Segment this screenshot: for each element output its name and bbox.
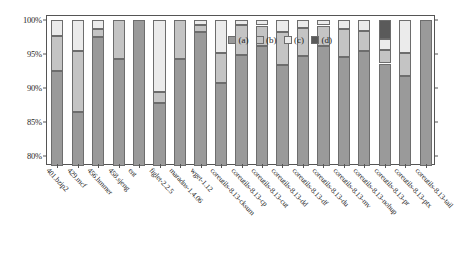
legend-label: (b) [266, 35, 277, 45]
bar-segment-b [338, 29, 350, 57]
bar-segment-c [92, 20, 104, 29]
legend-item: (d) [311, 35, 332, 45]
legend-item: (b) [256, 35, 277, 45]
x-axis-labels: 401.bzip2429.mcf456.hmmer458.sjengentfig… [0, 166, 464, 261]
bar-segment-a [256, 46, 268, 166]
bar-segment-a [174, 59, 186, 166]
y-axis-tick-mark-right [434, 121, 438, 122]
y-axis-tick-mark-right [434, 155, 438, 156]
bar-segment-b [215, 53, 227, 83]
bar-group [92, 16, 104, 164]
bar-group [399, 16, 411, 164]
bar-segment-a [317, 46, 329, 166]
bar-segment-a [153, 103, 165, 166]
bar-segment-c [338, 20, 350, 29]
bar-segment-a [297, 56, 309, 166]
bar-segment-d [379, 20, 391, 39]
y-axis-tick-mark-right [434, 20, 438, 21]
legend-swatch-b [256, 36, 264, 44]
bar-segment-b [92, 29, 104, 37]
legend-swatch-a [228, 36, 236, 44]
bar-segment-b [358, 31, 370, 51]
bar-segment-c [215, 20, 227, 53]
bar-segment-c [235, 20, 247, 25]
chart-figure: 100%95%90%85%80% (a)(b)(c)(d) 401.bzip24… [0, 0, 464, 261]
bar-segment-a [215, 83, 227, 166]
bar-segment-b [379, 50, 391, 64]
chart-legend: (a)(b)(c)(d) [228, 35, 332, 45]
bar-segment-a [235, 55, 247, 166]
bar-segment-c [297, 20, 309, 28]
bar-segment-a [338, 57, 350, 166]
bar-segment-a [194, 32, 206, 166]
bar-segment-c [276, 20, 288, 32]
plot-area: 100%95%90%85%80% (a)(b)(c)(d) [46, 15, 435, 165]
legend-label: (a) [239, 35, 249, 45]
legend-item: (c) [284, 35, 305, 45]
bar-group [113, 16, 125, 164]
y-axis-tick-mark-right [434, 54, 438, 55]
bar-segment-b [194, 25, 206, 32]
bar-segment-a [420, 20, 432, 166]
bar-segment-a [92, 37, 104, 166]
bar-segment-a [113, 59, 125, 166]
bar-segment-a [276, 65, 288, 166]
bar-group [51, 16, 63, 164]
bar-segment-b [174, 20, 186, 59]
bar-segment-c [194, 20, 206, 25]
legend-swatch-d [311, 36, 319, 44]
legend-swatch-c [284, 36, 292, 44]
legend-label: (c) [294, 35, 304, 45]
bar-group [379, 16, 391, 164]
bar-segment-c [358, 20, 370, 31]
bar-segment-c [256, 20, 268, 25]
bar-group [338, 16, 350, 164]
bar-group [420, 16, 432, 164]
bar-group [153, 16, 165, 164]
bar-segment-b [51, 36, 63, 71]
bar-segment-c [51, 20, 63, 36]
bar-group [358, 16, 370, 164]
bar-segment-c [399, 20, 411, 53]
bar-segment-a [379, 64, 391, 166]
bar-segment-c [72, 20, 84, 51]
bar-segment-b [72, 51, 84, 112]
legend-label: (d) [322, 35, 333, 45]
bar-group [133, 16, 145, 164]
bar-segment-c [317, 20, 329, 25]
x-axis-tick-label: ent [127, 166, 140, 179]
bar-segment-a [399, 76, 411, 166]
bar-segment-a [51, 71, 63, 166]
bar-segment-b [113, 20, 125, 59]
bar-group [174, 16, 186, 164]
bar-segment-b [399, 53, 411, 76]
bar-group [194, 16, 206, 164]
bar-segment-c [379, 39, 391, 50]
bar-group [72, 16, 84, 164]
bar-segment-a [133, 20, 145, 166]
bar-group [215, 16, 227, 164]
bar-segment-a [72, 112, 84, 166]
bar-segment-a [358, 51, 370, 166]
bar-segment-c [153, 20, 165, 92]
y-axis-tick-mark-right [434, 87, 438, 88]
legend-item: (a) [228, 35, 249, 45]
bar-segment-b [153, 92, 165, 103]
